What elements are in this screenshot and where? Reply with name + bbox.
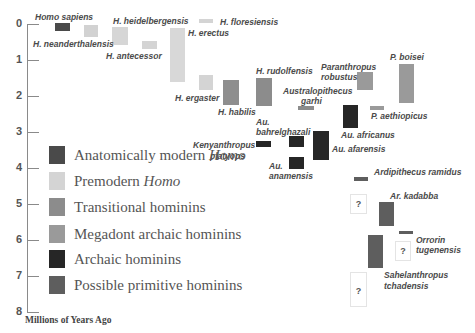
bar-sahelanthropus-tchadensis	[368, 235, 383, 268]
bar-ar-kadabba	[379, 202, 394, 226]
bar-orrorin-tugenensis	[399, 231, 413, 234]
bar-h-neanderthalensis	[84, 25, 98, 37]
axis-title: Millions of Years Ago	[25, 315, 111, 325]
bar-au-africanus	[343, 105, 358, 128]
hominin-timeline-chart: 0 1 2 3 4 5 6 7 8 Millions of Years Ago …	[0, 0, 475, 333]
y-tick-8	[27, 312, 39, 313]
label-h-erectus: H. erectus	[188, 28, 229, 38]
label-p-robustus-line1: Paranthropus	[321, 62, 376, 72]
uncertain-marker: ?	[350, 194, 367, 214]
label-ar-ramidus: Ardipithecus ramidus	[374, 167, 461, 177]
bar-homo-sapiens	[55, 23, 70, 31]
label-h-rudolfensis: H. rudolfensis	[256, 66, 313, 76]
legend-label-primitive: Possible primitive hominins	[74, 276, 242, 294]
bar-h-habilis	[223, 80, 239, 105]
label-au-bahrelghazali-line1: Au.	[256, 117, 270, 127]
bar-p-aethiopicus	[370, 106, 384, 110]
legend-swatch-primitive	[49, 276, 65, 294]
bar-h-heidelbergensis	[112, 27, 128, 45]
bar-h-rudolfensis	[256, 78, 272, 106]
y-tick-label-4: 4	[8, 161, 22, 173]
label-orrorin-line1: Orrorin	[416, 235, 445, 245]
bar-kenyanthropus-platyops	[256, 141, 271, 147]
label-sahelanthropus-line2: tchadensis	[384, 281, 428, 291]
label-ar-kadabba: Ar. kadabba	[390, 191, 438, 201]
bar-au-anamensis	[289, 157, 304, 169]
y-tick-3	[27, 132, 39, 133]
bar-h-floresiensis	[199, 19, 213, 23]
bar-au-garhi	[298, 106, 314, 110]
label-au-bahrelghazali-line2: bahrelghazali	[256, 127, 310, 137]
label-p-aethiopicus: P. aethiopicus	[371, 111, 428, 121]
label-au-africanus: Au. africanus	[341, 130, 395, 140]
y-tick-0	[27, 24, 39, 25]
label-h-habilis: H. habilis	[218, 107, 256, 117]
legend-label-modern: Anatomically modern Homo	[74, 146, 246, 164]
legend-swatch-archaic	[49, 250, 65, 268]
legend-label-megadont: Megadont archaic hominins	[74, 225, 241, 243]
label-au-anamensis-line1: Au.	[269, 161, 283, 171]
legend-label-archaic: Archaic hominins	[74, 250, 181, 268]
legend-swatch-premodern	[49, 172, 65, 190]
bar-h-ergaster	[199, 75, 213, 90]
bar-h-erectus	[170, 28, 185, 82]
y-tick-4	[27, 168, 39, 169]
bar-p-robustus	[357, 72, 373, 90]
y-tick-label-7: 7	[8, 269, 22, 281]
label-h-antecessor: H. antecessor	[106, 51, 162, 61]
y-tick-6	[27, 240, 39, 241]
y-tick-2	[27, 96, 39, 97]
bar-au-bahrelghazali	[289, 136, 304, 147]
y-tick-label-2: 2	[8, 89, 22, 101]
label-h-neanderthalensis: H. neanderthalensis	[33, 39, 114, 49]
y-tick-7	[27, 276, 39, 277]
label-h-ergaster: H. ergaster	[175, 93, 219, 103]
label-orrorin-line2: tugenensis	[416, 245, 461, 255]
y-tick-1	[27, 60, 39, 61]
legend-label-premodern: Premodern Homo	[74, 172, 180, 190]
label-au-anamensis-line2: anamensis	[269, 171, 313, 181]
y-tick-label-1: 1	[8, 53, 22, 65]
y-tick-label-5: 5	[8, 197, 22, 209]
y-tick-label-8: 8	[8, 305, 22, 317]
label-au-afarensis: Au. afarensis	[332, 144, 385, 154]
bar-ar-ramidus	[354, 177, 368, 181]
legend-swatch-transitional	[49, 198, 65, 216]
label-p-robustus-line2: robustus	[321, 72, 357, 82]
bar-h-antecessor	[142, 41, 157, 49]
label-sahelanthropus-line1: Sahelanthropus	[384, 270, 448, 280]
legend-label-transitional: Transitional hominins	[74, 198, 206, 216]
bar-au-afarensis	[313, 131, 329, 160]
y-tick-label-3: 3	[8, 125, 22, 137]
label-homo-sapiens: Homo sapiens	[35, 12, 93, 22]
y-tick-label-6: 6	[8, 233, 22, 245]
y-tick-5	[27, 204, 39, 205]
legend-swatch-modern	[49, 146, 65, 164]
y-tick-label-0: 0	[8, 17, 22, 29]
label-au-garhi-line1: Australopithecus	[283, 86, 352, 96]
label-h-floresiensis: H. floresiensis	[220, 17, 278, 27]
label-h-heidelbergensis: H. heidelbergensis	[113, 16, 189, 26]
uncertain-marker: ?	[350, 272, 367, 307]
uncertain-marker: ?	[395, 241, 411, 261]
legend-swatch-megadont	[49, 225, 65, 243]
label-p-boisei: P. boisei	[390, 52, 424, 62]
bar-p-boisei	[399, 64, 414, 103]
label-au-garhi-line2: garhi	[301, 96, 322, 106]
